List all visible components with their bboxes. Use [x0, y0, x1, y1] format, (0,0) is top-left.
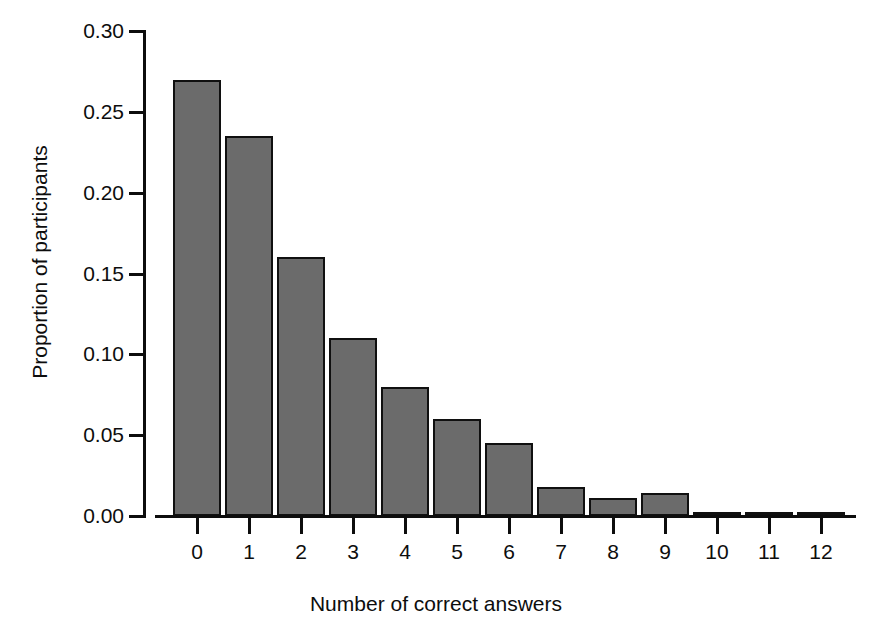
y-axis-title-wrapper: Proportion of participants — [28, 12, 52, 512]
x-axis-tick — [196, 518, 199, 534]
x-axis-tick-label: 7 — [531, 541, 591, 562]
y-axis-tick — [129, 273, 144, 276]
y-axis-tick-label: 0.05 — [56, 424, 124, 445]
bar — [433, 419, 481, 516]
x-axis-tick-label: 10 — [687, 541, 747, 562]
y-axis-tick — [129, 30, 144, 33]
y-axis-tick-label: 0.00 — [56, 505, 124, 526]
x-axis-tick-label: 9 — [635, 541, 695, 562]
y-axis-tick-label: 0.20 — [56, 182, 124, 203]
x-axis-tick — [300, 518, 303, 534]
y-axis-tick-label: 0.30 — [56, 20, 124, 41]
x-axis-tick — [352, 518, 355, 534]
x-axis-tick-label: 6 — [479, 541, 539, 562]
y-axis-tick — [129, 353, 144, 356]
y-axis-title: Proportion of participants — [28, 145, 51, 378]
x-axis-line — [155, 515, 856, 518]
x-axis-tick-label: 4 — [375, 541, 435, 562]
y-axis-tick-labels: 0.000.050.100.150.200.250.30 — [0, 0, 124, 642]
y-axis-tick — [129, 434, 144, 437]
x-axis-tick-label: 0 — [167, 541, 227, 562]
y-axis-tick-label: 0.10 — [56, 343, 124, 364]
y-axis-tick — [129, 515, 144, 518]
x-axis-tick-label: 12 — [791, 541, 851, 562]
y-axis-tick — [129, 111, 144, 114]
plot-area — [144, 31, 856, 516]
bar — [589, 498, 637, 516]
x-axis-tick — [612, 518, 615, 534]
bar — [329, 338, 377, 516]
x-axis-title: Number of correct answers — [0, 592, 872, 616]
bar — [641, 493, 689, 516]
x-axis-tick-label: 5 — [427, 541, 487, 562]
bar — [277, 257, 325, 516]
bar — [225, 136, 273, 516]
x-axis-tick-label: 1 — [219, 541, 279, 562]
x-axis-tick — [716, 518, 719, 534]
x-axis-tick — [560, 518, 563, 534]
x-axis-tick-label: 3 — [323, 541, 383, 562]
y-axis-tick-label: 0.15 — [56, 263, 124, 284]
x-axis-tick — [820, 518, 823, 534]
bar — [537, 487, 585, 516]
bar-chart-figure: 0.000.050.100.150.200.250.30 01234567891… — [0, 0, 872, 642]
x-axis-tick — [404, 518, 407, 534]
x-axis-tick — [664, 518, 667, 534]
x-axis-tick-label: 8 — [583, 541, 643, 562]
bar — [485, 443, 533, 516]
bar — [173, 80, 221, 517]
bar — [381, 387, 429, 516]
x-axis-tick-label: 2 — [271, 541, 331, 562]
x-axis-tick — [456, 518, 459, 534]
x-axis-tick-label: 11 — [739, 541, 799, 562]
y-axis-tick-label: 0.25 — [56, 101, 124, 122]
x-axis-tick — [508, 518, 511, 534]
y-axis-tick — [129, 192, 144, 195]
x-axis-tick — [248, 518, 251, 534]
x-axis-tick — [768, 518, 771, 534]
